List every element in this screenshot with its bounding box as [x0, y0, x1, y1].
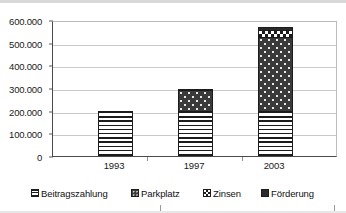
legend-label-zinsen: Zinsen [213, 188, 241, 199]
y-axis: 600.000 500.000 400.000 300.000 200.000 … [0, 12, 49, 168]
scan-artifact-top [0, 0, 346, 3]
legend-item-parkplatz[interactable]: Parkplatz [131, 184, 180, 202]
y-axis-label-400000: 400.000 [9, 61, 42, 72]
y-axis-label-200000: 200.000 [9, 106, 42, 117]
x-axis-label-1993: 1993 [104, 160, 125, 171]
y-axis-label-600000: 600.000 [9, 16, 42, 27]
bar-1997 [178, 89, 213, 157]
scan-artifact-bottom [0, 211, 346, 213]
x-axis-separator-2 [242, 157, 243, 161]
bar-segment-2003-parkplatz [259, 38, 292, 112]
bar-segment-2003-zinsen [259, 31, 292, 38]
legend-label-parkplatz: Parkplatz [141, 188, 180, 199]
bar-segment-1993-beitragszahlung [99, 112, 132, 155]
x-axis-label-1997: 1997 [184, 160, 205, 171]
chart-legend: Beitragszahlung Parkplatz Zinsen Förderu… [0, 184, 346, 202]
checks-swatch-icon [203, 189, 211, 197]
bar-2003 [258, 27, 293, 156]
bar-chart: 600.000 500.000 400.000 300.000 200.000 … [0, 0, 346, 213]
gridline-500000 [53, 45, 336, 46]
x-axis-separator-1 [147, 157, 148, 161]
legend-label-foerderung: Förderung [271, 188, 314, 199]
x-axis-label-2003: 2003 [264, 160, 285, 171]
legend-item-foerderung[interactable]: Förderung [261, 184, 314, 202]
dark-dots-swatch-icon [131, 189, 139, 197]
bar-1993 [98, 111, 133, 156]
solid-swatch-icon [261, 189, 269, 197]
y-axis-label-100000: 100.000 [9, 129, 42, 140]
y-axis-label-0: 0 [37, 152, 42, 163]
legend-item-zinsen[interactable]: Zinsen [203, 184, 241, 202]
legend-label-beitragszahlung: Beitragszahlung [41, 188, 108, 199]
x-axis: 1993 1997 2003 [52, 160, 337, 176]
plot-area [52, 21, 337, 157]
bar-segment-2003-beitragszahlung [259, 112, 292, 156]
y-axis-label-500000: 500.000 [9, 38, 42, 49]
bar-segment-1997-parkplatz [179, 91, 212, 112]
bar-segment-1997-beitragszahlung [179, 112, 212, 155]
y-axis-label-300000: 300.000 [9, 84, 42, 95]
gridline-400000 [53, 67, 336, 68]
hlines-swatch-icon [31, 189, 39, 197]
legend-item-beitragszahlung[interactable]: Beitragszahlung [31, 184, 108, 202]
